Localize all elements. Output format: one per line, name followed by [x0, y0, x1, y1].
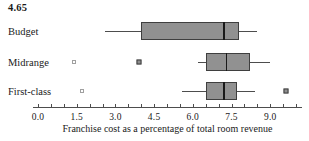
x-axis-tick [103, 104, 104, 107]
x-tick-label: 3.0 [109, 112, 121, 122]
outlier-open-marker [80, 89, 84, 93]
x-axis-tick [232, 104, 233, 107]
median-line [223, 82, 225, 100]
x-axis-tick [180, 104, 181, 107]
x-tick-label: 7.5 [225, 112, 237, 122]
x-axis-tick [128, 104, 129, 107]
median-line [226, 53, 228, 71]
x-axis-tick [193, 104, 194, 107]
x-tick-label: 4.5 [148, 112, 160, 122]
category-label-first-class: First-class [8, 86, 51, 97]
outlier-filled-marker [283, 89, 288, 94]
x-axis-tick [90, 104, 91, 107]
x-axis-tick [244, 104, 245, 107]
x-axis-title: Franchise cost as a percentage of total … [33, 123, 302, 134]
x-axis-tick [296, 104, 297, 107]
x-axis-tick [206, 104, 207, 107]
outlier-filled-marker [136, 60, 141, 65]
x-axis-line [33, 107, 302, 108]
x-axis-tick [283, 104, 284, 107]
box-iqr [206, 53, 250, 71]
x-axis-tick [141, 104, 142, 107]
x-axis-tick [77, 104, 78, 107]
x-axis-tick [270, 104, 271, 107]
category-label-midrange: Midrange [8, 57, 49, 68]
x-axis-tick [154, 104, 155, 107]
boxplot-figure: 4.65 BudgetMidrangeFirst-class0.01.53.04… [0, 0, 309, 141]
box-iqr [206, 82, 237, 100]
x-tick-label: 6.0 [187, 112, 199, 122]
x-axis-tick [64, 104, 65, 107]
box-iqr [141, 22, 239, 40]
x-axis-tick [219, 104, 220, 107]
figure-number: 4.65 [8, 2, 27, 13]
x-axis-tick [257, 104, 258, 107]
outlier-open-marker [72, 60, 76, 64]
x-axis-tick [38, 104, 39, 107]
x-tick-label: 9.0 [264, 112, 276, 122]
x-axis-tick [51, 104, 52, 107]
x-axis-tick [167, 104, 168, 107]
x-axis-tick [115, 104, 116, 107]
median-line [223, 22, 225, 40]
x-tick-label: 1.5 [70, 112, 82, 122]
category-label-budget: Budget [8, 26, 38, 37]
x-tick-label: 0.0 [32, 112, 44, 122]
